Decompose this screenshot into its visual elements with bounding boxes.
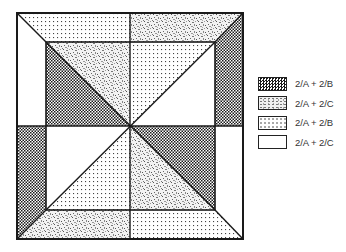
legend-label: 2/A + 2/B: [295, 78, 333, 89]
legend-item: 2/A + 2/B: [258, 74, 333, 94]
legend-label: 2/A + 2/C: [295, 98, 333, 109]
legend-item: 2/A + 2/C: [258, 94, 333, 114]
legend-label: 2/A + 2/C: [295, 137, 333, 148]
legend-item: 2/A + 2/B: [258, 113, 333, 133]
legend-swatch-texture: [258, 96, 287, 110]
legend-swatch-checker: [258, 77, 287, 91]
legend-label: 2/A + 2/B: [295, 117, 333, 128]
outline-group: [17, 13, 243, 239]
legend-swatch-dots: [258, 116, 287, 130]
legend-swatch-white: [258, 135, 287, 149]
legend: 2/A + 2/B 2/A + 2/C 2/A + 2/B 2/A + 2/C: [258, 74, 333, 152]
legend-item: 2/A + 2/C: [258, 133, 333, 153]
